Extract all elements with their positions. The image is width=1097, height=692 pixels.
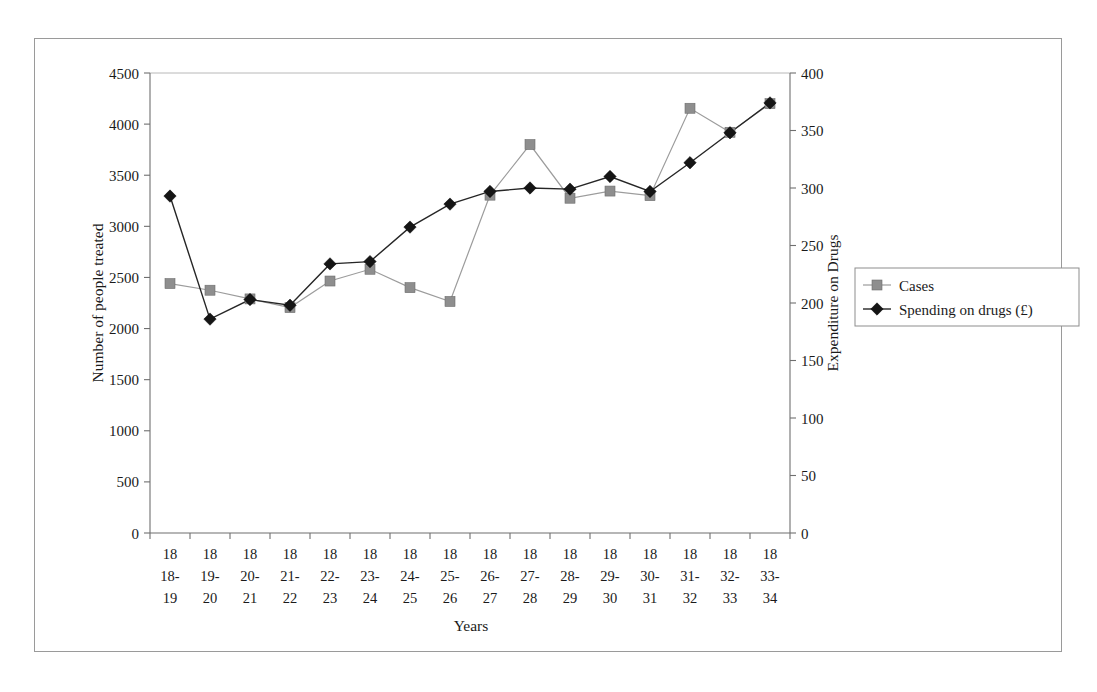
x-category-label: 18	[723, 546, 738, 562]
y-tick-label-left: 3000	[109, 219, 139, 235]
data-point-cases	[205, 285, 215, 295]
x-category-label: 18	[563, 546, 578, 562]
x-category-label: 26	[443, 590, 458, 606]
x-category-label: 23	[323, 590, 338, 606]
legend-label-cases[interactable]: Cases	[899, 278, 934, 294]
x-axis-category-labels: 1818-191819-201820-211821-221822-231823-…	[160, 546, 780, 606]
series-line-spending	[170, 103, 770, 319]
data-point-cases	[525, 140, 535, 150]
data-point-spending	[204, 313, 216, 325]
x-category-label: 29-	[600, 568, 620, 584]
x-category-label: 28-	[560, 568, 580, 584]
y-axis-right-tick-labels: 050100150200250300350400	[801, 66, 824, 542]
x-category-label: 25	[403, 590, 418, 606]
y-tick-label-right: 150	[801, 353, 824, 369]
x-category-label: 18	[283, 546, 298, 562]
x-axis-title: Years	[454, 617, 489, 634]
legend-marker-cases	[872, 280, 882, 290]
data-point-cases	[325, 276, 335, 286]
series-line-cases	[170, 104, 770, 308]
x-category-label: 18	[323, 546, 338, 562]
x-category-label: 24	[363, 590, 378, 606]
y-tick-label-right: 200	[801, 296, 824, 312]
x-category-label: 21-	[280, 568, 300, 584]
data-point-spending	[604, 170, 616, 182]
y-tick-label-left: 4500	[109, 66, 139, 82]
x-category-label: 26-	[480, 568, 500, 584]
x-category-label: 18	[763, 546, 778, 562]
x-category-label: 18	[403, 546, 418, 562]
y-tick-label-right: 0	[801, 526, 809, 542]
x-category-label: 29	[563, 590, 578, 606]
x-category-label: 18	[243, 546, 258, 562]
data-point-spending	[444, 198, 456, 210]
x-category-label: 28	[523, 590, 538, 606]
x-category-label: 18	[163, 546, 178, 562]
y-tick-label-left: 1000	[109, 423, 139, 439]
x-category-label: 22	[283, 590, 298, 606]
chart-legend[interactable]: CasesSpending on drugs (£)	[855, 268, 1079, 326]
x-category-label: 27-	[520, 568, 540, 584]
x-category-label: 33-	[760, 568, 780, 584]
data-point-cases	[405, 283, 415, 293]
x-category-label: 24-	[400, 568, 420, 584]
x-category-label: 31-	[680, 568, 700, 584]
x-category-label: 33	[723, 590, 738, 606]
x-category-label: 18	[683, 546, 698, 562]
data-point-spending	[164, 190, 176, 202]
x-category-label: 18	[443, 546, 458, 562]
y-tick-label-left: 2500	[109, 270, 139, 286]
y-tick-label-right: 250	[801, 238, 824, 254]
x-category-label: 21	[243, 590, 258, 606]
y-tick-label-left: 4000	[109, 117, 139, 133]
x-category-label: 20	[203, 590, 218, 606]
y-tick-label-right: 350	[801, 123, 824, 139]
x-category-label: 23-	[360, 568, 380, 584]
data-point-cases	[445, 296, 455, 306]
data-point-spending	[524, 182, 536, 194]
y-axis-left-tick-labels: 050010001500200025003000350040004500	[109, 66, 139, 542]
y-axis-left-ticks	[144, 73, 150, 533]
x-category-label: 27	[483, 590, 498, 606]
x-category-label: 18-	[160, 568, 180, 584]
data-series-group	[164, 97, 776, 326]
x-category-label: 30	[603, 590, 618, 606]
y-axis-left-title: Number of people treated	[89, 223, 106, 382]
x-category-label: 30-	[640, 568, 660, 584]
line-chart: 050010001500200025003000350040004500 050…	[0, 0, 1097, 692]
y-tick-label-left: 500	[117, 474, 140, 490]
data-point-cases	[605, 186, 615, 196]
x-category-label: 34	[763, 590, 778, 606]
y-tick-label-right: 100	[801, 411, 824, 427]
x-category-label: 18	[643, 546, 658, 562]
x-category-label: 19	[163, 590, 178, 606]
y-tick-label-right: 50	[801, 468, 816, 484]
y-tick-label-left: 0	[132, 526, 140, 542]
page-root: 050010001500200025003000350040004500 050…	[0, 0, 1097, 692]
y-tick-label-left: 3500	[109, 168, 139, 184]
x-category-label: 32	[683, 590, 698, 606]
y-axis-right-ticks	[790, 73, 796, 533]
x-category-label: 25-	[440, 568, 460, 584]
x-category-label: 18	[603, 546, 618, 562]
y-tick-label-left: 1500	[109, 372, 139, 388]
x-category-label: 31	[643, 590, 658, 606]
data-point-spending	[684, 157, 696, 169]
x-axis-ticks	[150, 533, 790, 539]
x-category-label: 22-	[320, 568, 340, 584]
x-category-label: 19-	[200, 568, 220, 584]
x-category-label: 20-	[240, 568, 260, 584]
x-category-label: 18	[363, 546, 378, 562]
x-category-label: 18	[483, 546, 498, 562]
data-point-cases	[165, 279, 175, 289]
y-tick-label-right: 400	[801, 66, 824, 82]
y-tick-label-left: 2000	[109, 321, 139, 337]
x-category-label: 18	[203, 546, 218, 562]
x-category-label: 32-	[720, 568, 740, 584]
y-tick-label-right: 300	[801, 181, 824, 197]
data-point-cases	[685, 103, 695, 113]
x-category-label: 18	[523, 546, 538, 562]
legend-label-spending[interactable]: Spending on drugs (£)	[899, 302, 1033, 319]
y-axis-right-title: Expenditure on Drugs	[824, 235, 841, 372]
